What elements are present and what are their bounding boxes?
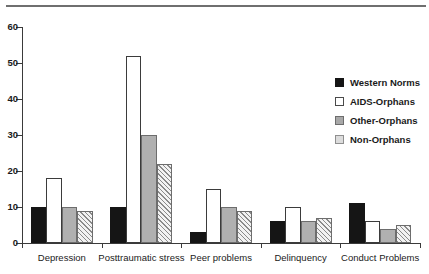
light-gray-swatch	[335, 135, 344, 144]
bar	[110, 207, 126, 243]
solid-black-swatch	[335, 78, 344, 87]
legend-item: Non-Orphans	[335, 131, 429, 147]
x-axis-line	[22, 243, 420, 244]
bar	[77, 211, 93, 243]
chart-legend: Western NormsAIDS-OrphansOther-OrphansNo…	[335, 74, 429, 150]
bar	[141, 135, 157, 243]
bar	[237, 211, 253, 243]
y-axis-tick-label: 10	[0, 202, 18, 212]
legend-item: Other-Orphans	[335, 112, 429, 128]
bar	[157, 164, 173, 243]
legend-item-label: AIDS-Orphans	[350, 96, 415, 107]
y-axis-tick-label: 50	[0, 58, 18, 68]
bar	[221, 207, 237, 243]
bar	[349, 203, 365, 243]
white-outline-swatch	[335, 97, 344, 106]
bar	[31, 207, 47, 243]
legend-item-label: Western Norms	[350, 77, 420, 88]
bar	[126, 56, 142, 243]
x-axis-tick	[420, 243, 421, 248]
legend-item-label: Other-Orphans	[350, 115, 418, 126]
bar	[62, 207, 78, 243]
y-axis-tick-label: 0	[0, 238, 18, 248]
bar	[396, 225, 412, 243]
bar	[46, 178, 62, 243]
bar	[301, 221, 317, 243]
legend-item-label: Non-Orphans	[350, 134, 411, 145]
y-axis-tick-label: 20	[0, 166, 18, 176]
x-axis-tick	[261, 243, 262, 248]
x-axis-tick	[22, 243, 23, 248]
y-axis-line	[22, 27, 23, 244]
y-axis-tick-label: 30	[0, 130, 18, 140]
x-axis-tick	[181, 243, 182, 248]
y-axis-tick-label: 60	[0, 22, 18, 32]
bar	[380, 229, 396, 243]
bar	[316, 218, 332, 243]
legend-item: Western Norms	[335, 74, 429, 90]
bar-chart-figure: 0102030405060 DepressionPosttraumatic st…	[0, 0, 429, 274]
bar	[285, 207, 301, 243]
y-axis-tick-label: 40	[0, 94, 18, 104]
x-axis-tick	[340, 243, 341, 248]
solid-gray-swatch	[335, 116, 344, 125]
bar	[190, 232, 206, 243]
x-axis-group-label: Conduct Problems	[320, 252, 429, 264]
bar	[365, 221, 381, 243]
bar	[270, 221, 286, 243]
x-axis-tick	[102, 243, 103, 248]
legend-item: AIDS-Orphans	[335, 93, 429, 109]
bar	[206, 189, 222, 243]
